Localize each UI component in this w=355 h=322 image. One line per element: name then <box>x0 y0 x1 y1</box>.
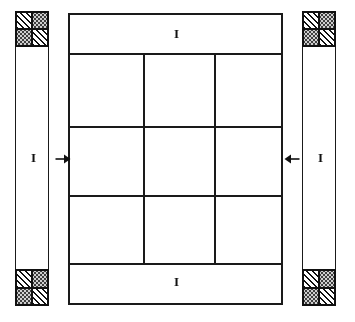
checker-cell-hatch-br <box>32 29 48 46</box>
diagram-canvas: ✗ ✗ ✗ ✗ ✗ ✗ ✗ ✗ ✗ ✗ ✗ ✗ ✗ ✗ ✗ ✗ ✗ ✗ ✗ ✗ … <box>0 0 355 322</box>
checker-cell-stipple-tr <box>319 12 335 29</box>
grid-cell-r2c2 <box>145 128 214 195</box>
checker-cell-stipple-tr <box>32 270 48 288</box>
grid-cell-r1c1 <box>70 55 143 126</box>
bottom-band-label: I <box>170 275 183 288</box>
grid-cell-r3c1 <box>70 197 143 263</box>
grid-cell-r1c2 <box>145 55 214 126</box>
left-pier-bottom-checker <box>15 269 49 306</box>
checker-cell-hatch-tl <box>303 12 319 29</box>
checker-cell-stipple-bl <box>16 288 32 306</box>
grid-cell-r1c3 <box>216 55 281 126</box>
right-pier-top-checker <box>302 11 336 47</box>
right-pier-bottom-checker <box>302 269 336 306</box>
checker-cell-hatch-br <box>319 288 335 306</box>
load-arrow-left <box>55 152 71 166</box>
checker-cell-hatch-br <box>32 288 48 306</box>
top-band-label: I <box>170 27 183 40</box>
right-pier-label: I <box>314 151 327 164</box>
grid-cell-r3c2 <box>145 197 214 263</box>
checker-cell-stipple-tr <box>32 12 48 29</box>
checker-cell-stipple-tr <box>319 270 335 288</box>
checker-cell-stipple-bl <box>16 29 32 46</box>
checker-cell-hatch-tl <box>303 270 319 288</box>
checker-cell-stipple-bl <box>303 29 319 46</box>
load-arrow-right <box>284 152 300 166</box>
grid-cell-r3c3 <box>216 197 281 263</box>
checker-cell-stipple-bl <box>303 288 319 306</box>
left-pier-top-checker <box>15 11 49 47</box>
grid-cell-r2c1 <box>70 128 143 195</box>
checker-cell-hatch-br <box>319 29 335 46</box>
left-pier-label: I <box>27 151 40 164</box>
grid-cell-r2c3 <box>216 128 281 195</box>
checker-cell-hatch-tl <box>16 12 32 29</box>
checker-cell-hatch-tl <box>16 270 32 288</box>
